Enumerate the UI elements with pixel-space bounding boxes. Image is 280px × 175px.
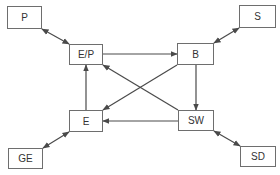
node-label: S: [254, 11, 261, 22]
node-sw: SW: [178, 110, 214, 131]
node-ep: E/P: [69, 44, 103, 65]
node-s: S: [239, 5, 276, 28]
edge-p-ep: [42, 29, 69, 44]
edge-s-b: [214, 28, 239, 43]
node-label: B: [192, 49, 199, 60]
node-label: P: [21, 12, 28, 23]
node-b: B: [177, 43, 214, 65]
edge-sd-sw: [214, 131, 240, 146]
node-label: SD: [251, 151, 265, 162]
node-label: SW: [188, 115, 204, 126]
node-label: E: [83, 116, 90, 127]
node-e: E: [69, 110, 103, 132]
node-sd: SD: [240, 146, 276, 167]
diagram: P E/P B S E SW GE SD: [0, 0, 280, 175]
edge-ge-e: [43, 132, 69, 148]
node-ge: GE: [8, 148, 43, 169]
node-p: P: [7, 6, 42, 29]
node-label: E/P: [78, 49, 94, 60]
node-label: GE: [18, 153, 32, 164]
